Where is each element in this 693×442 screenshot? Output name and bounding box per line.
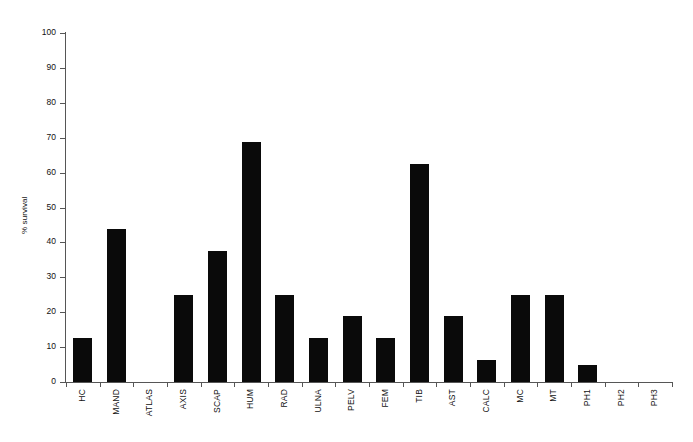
- bar-slot: [369, 33, 403, 382]
- bar: [309, 338, 328, 382]
- x-axis-label-slot: MT: [537, 389, 571, 441]
- x-axis-tick: [436, 382, 437, 387]
- x-axis-label-slot: TIB: [403, 389, 437, 441]
- bar-slot: [335, 33, 369, 382]
- x-axis-label: AXIS: [167, 389, 201, 441]
- x-axis-label: PH2: [605, 389, 639, 441]
- x-axis-label: CALC: [470, 389, 504, 441]
- x-axis-tick: [571, 382, 572, 387]
- x-axis-label-slot: MAND: [100, 389, 134, 441]
- x-axis-tick: [167, 382, 168, 387]
- bar: [444, 316, 463, 382]
- x-axis-label: TIB: [403, 389, 437, 441]
- x-axis-label-slot: AST: [436, 389, 470, 441]
- x-axis-label-slot: PH1: [571, 389, 605, 441]
- bar: [511, 295, 530, 382]
- x-axis-tick: [100, 382, 101, 387]
- bar-slot: [302, 33, 336, 382]
- bar-slot: [605, 33, 639, 382]
- x-axis-tick: [268, 382, 269, 387]
- y-axis-tick-label: 10: [47, 341, 60, 352]
- bar: [376, 338, 395, 382]
- y-axis-tick-label: 30: [47, 271, 60, 282]
- x-axis-tick: [605, 382, 606, 387]
- bar-slot: [504, 33, 538, 382]
- x-axis-tick: [133, 382, 134, 387]
- bar-chart: % survival 0102030405060708090100 HCMAND…: [0, 0, 693, 442]
- bar-slot: [470, 33, 504, 382]
- x-axis-label-slot: ATLAS: [133, 389, 167, 441]
- x-axis-tick: [369, 382, 370, 387]
- x-axis-label: PH3: [638, 389, 672, 441]
- x-axis-tick: [638, 382, 639, 387]
- x-axis-tick: [504, 382, 505, 387]
- bar: [410, 164, 429, 382]
- y-axis-title: % survival: [18, 175, 32, 255]
- bar-slot: [268, 33, 302, 382]
- x-axis-label-slot: CALC: [470, 389, 504, 441]
- x-axis-label-slot: MC: [504, 389, 538, 441]
- x-axis-label: HUM: [234, 389, 268, 441]
- y-axis-tick-label: 80: [47, 97, 60, 108]
- x-axis-label-slot: ULNA: [302, 389, 336, 441]
- y-axis-tick-label: 90: [47, 62, 60, 73]
- plot-area: [66, 33, 672, 382]
- x-axis-label: ATLAS: [133, 389, 167, 441]
- x-axis-tick: [66, 382, 67, 387]
- x-axis-label: MT: [537, 389, 571, 441]
- x-axis-label: ULNA: [302, 389, 336, 441]
- x-axis-label-slot: SCAP: [201, 389, 235, 441]
- bar: [174, 295, 193, 382]
- x-axis-tick: [537, 382, 538, 387]
- y-axis-tick-label: 70: [47, 132, 60, 143]
- x-axis-label-slot: HUM: [234, 389, 268, 441]
- bar: [73, 338, 92, 382]
- bar-slot: [571, 33, 605, 382]
- x-axis-label: PELV: [335, 389, 369, 441]
- bar-slot: [403, 33, 437, 382]
- x-axis-label: SCAP: [201, 389, 235, 441]
- y-axis-tick-label: 50: [47, 202, 60, 213]
- x-axis-tick: [403, 382, 404, 387]
- bar: [477, 360, 496, 382]
- x-axis-label: FEM: [369, 389, 403, 441]
- x-axis-label-slot: PH3: [638, 389, 672, 441]
- bar: [107, 229, 126, 382]
- x-axis-label-slot: AXIS: [167, 389, 201, 441]
- bar-slot: [201, 33, 235, 382]
- x-axis-tick: [470, 382, 471, 387]
- x-axis-label: MAND: [100, 389, 134, 441]
- x-axis-tick: [335, 382, 336, 387]
- x-axis-tick: [201, 382, 202, 387]
- x-axis-label: HC: [66, 389, 100, 441]
- y-axis-tick-label: 60: [47, 167, 60, 178]
- x-axis-tick: [302, 382, 303, 387]
- bar-slot: [234, 33, 268, 382]
- x-axis-labels: HCMANDATLASAXISSCAPHUMRADULNAPELVFEMTIBA…: [66, 389, 672, 441]
- bar: [343, 316, 362, 382]
- x-axis-label: RAD: [268, 389, 302, 441]
- y-axis-tick-label: 0: [51, 376, 60, 387]
- bar-slot: [100, 33, 134, 382]
- x-axis-label-slot: HC: [66, 389, 100, 441]
- x-axis-label: AST: [436, 389, 470, 441]
- x-axis-tick: [234, 382, 235, 387]
- y-axis-tick-label: 100: [42, 27, 60, 38]
- x-axis-label-slot: PH2: [605, 389, 639, 441]
- x-axis-label: PH1: [571, 389, 605, 441]
- x-axis-label-slot: RAD: [268, 389, 302, 441]
- bar-slot: [638, 33, 672, 382]
- x-axis-label-slot: PELV: [335, 389, 369, 441]
- bar-slot: [66, 33, 100, 382]
- bar-slot: [537, 33, 571, 382]
- bar-slot: [436, 33, 470, 382]
- bar: [208, 251, 227, 382]
- bar-slot: [167, 33, 201, 382]
- x-axis-label-slot: FEM: [369, 389, 403, 441]
- y-axis-tick-label: 40: [47, 236, 60, 247]
- bar: [242, 142, 261, 382]
- bar-slot: [133, 33, 167, 382]
- x-axis-tick: [672, 382, 673, 387]
- bar: [545, 295, 564, 382]
- y-axis-tick-label: 20: [47, 306, 60, 317]
